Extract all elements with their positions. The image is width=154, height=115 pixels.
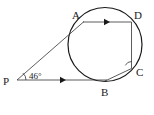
angle-arc-c	[125, 62, 131, 66]
label-point-d: D	[134, 9, 142, 21]
label-point-c: C	[136, 66, 143, 78]
geometry-canvas: A B C D P 46°	[0, 0, 154, 115]
segment-pa	[17, 22, 84, 81]
geometry-figure: A B C D P 46°	[0, 0, 154, 115]
arrow-marker-pb-icon	[60, 77, 66, 83]
arrow-marker-ad-icon	[104, 19, 110, 25]
label-point-a: A	[72, 9, 80, 21]
label-point-b: B	[101, 86, 108, 98]
label-point-p: P	[3, 75, 9, 87]
label-angle-p: 46°	[29, 71, 42, 81]
